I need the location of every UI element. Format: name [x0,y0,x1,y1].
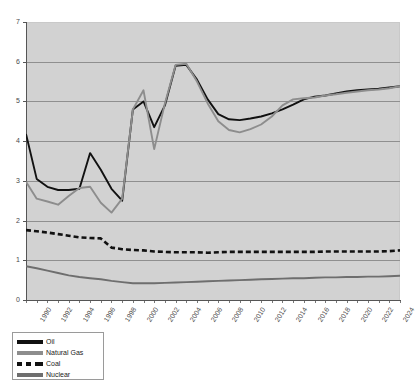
x-tick-label: 2024 [402,306,416,323]
series-line-coal [26,230,400,253]
x-axis-line [26,300,401,301]
x-tick-label: 1990 [38,306,52,323]
y-tick-label: 0 [0,296,20,303]
legend-item-nuclear: Nuclear [17,369,100,380]
x-tick-label: 2012 [273,306,287,323]
x-tick-label: 1994 [81,306,95,323]
legend-label: Oil [46,338,55,346]
series-line-oil [26,65,400,201]
x-tick-label: 2016 [316,306,330,323]
x-tick-label: 2000 [145,306,159,323]
legend-label: Nuclear [46,371,70,379]
y-tick-label: 5 [0,97,20,104]
x-tick-label: 2002 [167,306,181,323]
y-tick-label: 4 [0,137,20,144]
x-tick-label: 2004 [188,306,202,323]
legend-label: Natural Gas [46,349,83,357]
legend-item-oil: Oil [17,336,100,347]
legend-swatch-icon [17,362,43,366]
chart-legend: OilNatural GasCoalNuclear [12,332,104,380]
y-tick-label: 7 [0,18,20,25]
y-tick-label: 2 [0,217,20,224]
legend-item-natural-gas: Natural Gas [17,347,100,358]
series-line-natural-gas [26,64,400,213]
y-tick-label: 1 [0,256,20,263]
x-tick-label: 2008 [231,306,245,323]
legend-swatch-icon [17,373,43,377]
x-tick-label: 2010 [252,306,266,323]
x-tick-label: 1996 [102,306,116,323]
y-tick-label: 6 [0,58,20,65]
x-tick-label: 2014 [295,306,309,323]
x-tick-label: 1998 [124,306,138,323]
x-tick-label: 1992 [60,306,74,323]
legend-item-coal: Coal [17,358,100,369]
legend-swatch-icon [17,340,43,344]
series-line-nuclear [26,266,400,283]
x-tick-label: 2022 [380,306,394,323]
x-tick-label: 2006 [209,306,223,323]
legend-label: Coal [46,360,60,368]
legend-swatch-icon [17,351,43,355]
x-tick-label: 2020 [359,306,373,323]
y-tick-label: 3 [0,177,20,184]
x-tick-label: 2018 [338,306,352,323]
series-layer [26,22,400,300]
